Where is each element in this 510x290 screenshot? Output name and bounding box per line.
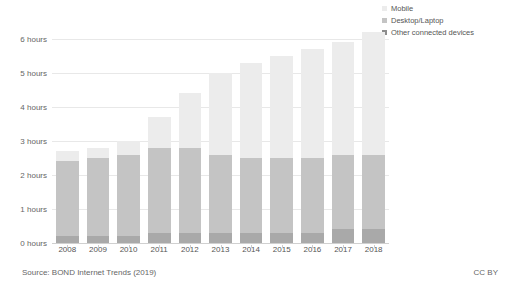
bar-segment <box>362 229 385 243</box>
bar-2011[interactable] <box>148 117 171 243</box>
bar-segment <box>240 63 263 158</box>
source-note: Source: BOND Internet Trends (2019) <box>22 268 156 278</box>
y-axis-tick-label: 1 hours <box>20 205 47 214</box>
bar-2018[interactable] <box>362 32 385 243</box>
bar-segment <box>332 229 355 243</box>
x-axis-tick <box>374 245 375 248</box>
bar-segment <box>148 148 171 233</box>
bar-2012[interactable] <box>179 93 202 243</box>
bar-segment <box>209 155 232 233</box>
bar-segment <box>87 236 110 243</box>
legend-swatch-mobile <box>382 6 387 11</box>
bar-segment <box>240 158 263 233</box>
x-axis-tick <box>312 245 313 248</box>
bar-segment <box>56 151 79 161</box>
legend-label-mobile: Mobile <box>391 4 413 13</box>
license-note: CC BY <box>474 268 498 278</box>
legend-item-other-connected-devices[interactable]: Other connected devices <box>382 27 504 37</box>
x-axis-tick <box>190 245 191 248</box>
x-axis-tick <box>129 245 130 248</box>
y-axis-tick-label: 0 hours <box>20 239 47 248</box>
y-axis-tick-label: 2 hours <box>20 171 47 180</box>
bar-2016[interactable] <box>301 49 324 243</box>
bar-segment <box>87 158 110 236</box>
bar-segment <box>270 56 293 158</box>
bar-segment <box>301 233 324 243</box>
y-axis-tick-label: 4 hours <box>20 103 47 112</box>
bar-segment <box>117 141 140 155</box>
bar-2009[interactable] <box>87 148 110 243</box>
bar-segment <box>148 117 171 148</box>
bar-segment <box>362 32 385 154</box>
bar-2015[interactable] <box>270 56 293 243</box>
x-axis-tick <box>282 245 283 248</box>
bar-segment <box>270 233 293 243</box>
bar-2017[interactable] <box>332 42 355 243</box>
bar-segment <box>179 93 202 147</box>
x-axis-tick <box>251 245 252 248</box>
bar-segment <box>362 155 385 230</box>
bar-segment <box>332 42 355 154</box>
bar-segment <box>332 155 355 230</box>
x-axis-tick <box>159 245 160 248</box>
bar-segment <box>117 236 140 243</box>
bar-segment <box>56 236 79 243</box>
chart-container: Mobile Desktop/Laptop Other connected de… <box>0 0 510 290</box>
bar-segment <box>117 155 140 237</box>
bar-2013[interactable] <box>209 73 232 243</box>
bar-segment <box>179 233 202 243</box>
gridline-0 <box>52 243 389 244</box>
bar-2008[interactable] <box>56 151 79 243</box>
x-axis-tick <box>343 245 344 248</box>
legend-label-other-connected-devices: Other connected devices <box>391 28 474 37</box>
bar-series-group <box>52 22 389 243</box>
y-axis-tick-label: 5 hours <box>20 69 47 78</box>
bar-segment <box>148 233 171 243</box>
y-axis-tick-label: 6 hours <box>20 35 47 44</box>
bar-segment <box>209 233 232 243</box>
x-axis-labels: 2008200920102011201220132014201520162017… <box>52 245 389 257</box>
legend-item-mobile[interactable]: Mobile <box>382 3 504 13</box>
x-axis-tick <box>98 245 99 248</box>
bar-segment <box>301 158 324 233</box>
legend-item-desktop-laptop[interactable]: Desktop/Laptop <box>382 15 504 25</box>
bar-2010[interactable] <box>117 141 140 243</box>
bar-segment <box>209 73 232 155</box>
bar-2014[interactable] <box>240 63 263 243</box>
y-axis-labels: 0 hours1 hours2 hours3 hours4 hours5 hou… <box>0 22 47 243</box>
bar-segment <box>240 233 263 243</box>
bar-segment <box>56 161 79 236</box>
bar-segment <box>270 158 293 233</box>
y-axis-tick-label: 3 hours <box>20 137 47 146</box>
x-axis-tick <box>67 245 68 248</box>
x-axis-tick <box>221 245 222 248</box>
legend-label-desktop-laptop: Desktop/Laptop <box>391 16 444 25</box>
bar-segment <box>87 148 110 158</box>
bar-segment <box>179 148 202 233</box>
chart-legend: Mobile Desktop/Laptop Other connected de… <box>382 3 504 39</box>
plot-area <box>52 22 389 243</box>
bar-segment <box>301 49 324 158</box>
